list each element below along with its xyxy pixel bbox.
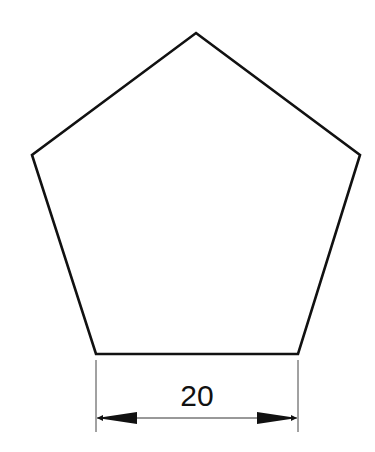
arrowhead-left [97, 412, 137, 424]
arrowhead-right [257, 412, 297, 424]
dimension-label: 20 [180, 379, 213, 412]
pentagon-outline [32, 33, 360, 354]
pentagon-diagram: 20 [0, 0, 375, 452]
